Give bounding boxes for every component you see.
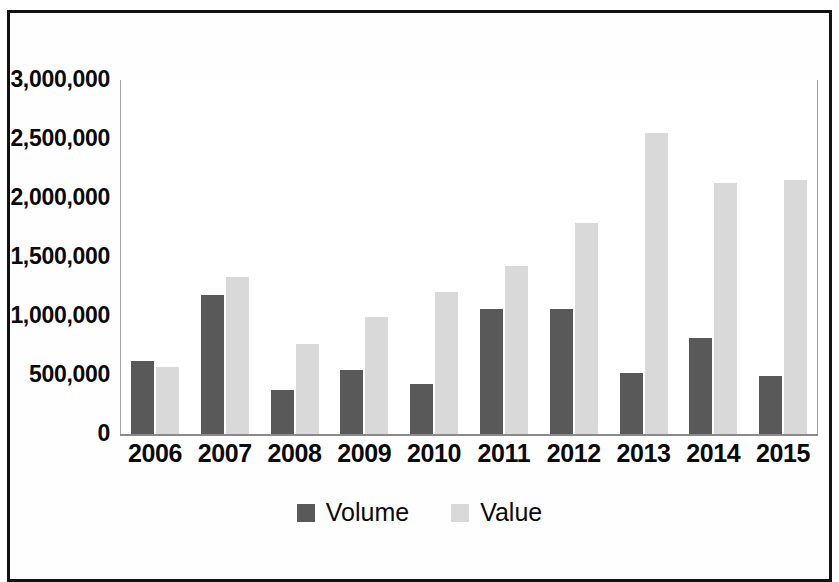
bar-volume-2011[interactable] bbox=[480, 309, 503, 434]
bar-value-2013[interactable] bbox=[645, 133, 668, 434]
x-axis-tick-label-2014: 2014 bbox=[678, 441, 748, 466]
y-axis-tick-label: 1,000,000 bbox=[6, 304, 110, 327]
bar-value-2007[interactable] bbox=[226, 277, 249, 434]
legend-entry-volume[interactable]: Volume bbox=[297, 500, 409, 525]
x-axis-tick-label-2012: 2012 bbox=[539, 441, 609, 466]
gridline bbox=[120, 434, 818, 436]
bar-volume-2008[interactable] bbox=[271, 390, 294, 434]
bar-value-2006[interactable] bbox=[156, 367, 179, 434]
bar-value-2011[interactable] bbox=[505, 266, 528, 434]
y-axis-tick-label: 2,500,000 bbox=[6, 127, 110, 150]
bar-volume-2015[interactable] bbox=[759, 376, 782, 434]
bar-value-2008[interactable] bbox=[296, 344, 319, 434]
legend-label-volume: Volume bbox=[326, 500, 409, 525]
bar-value-2012[interactable] bbox=[575, 223, 598, 434]
x-axis-tick-label-2006: 2006 bbox=[120, 441, 190, 466]
bar-volume-2006[interactable] bbox=[131, 361, 154, 434]
bars-layer bbox=[120, 80, 818, 434]
bar-volume-2010[interactable] bbox=[410, 384, 433, 434]
bar-volume-2012[interactable] bbox=[550, 309, 573, 434]
bar-value-2015[interactable] bbox=[784, 180, 807, 434]
x-axis-tick-label-2010: 2010 bbox=[399, 441, 469, 466]
legend-label-value: Value bbox=[480, 500, 542, 525]
bar-volume-2009[interactable] bbox=[340, 370, 363, 434]
y-axis-tick-label: 2,000,000 bbox=[6, 186, 110, 209]
x-axis-tick-label-2011: 2011 bbox=[469, 441, 539, 466]
legend-swatch-value-icon bbox=[451, 504, 469, 522]
x-axis-tick-label-2009: 2009 bbox=[329, 441, 399, 466]
bar-value-2009[interactable] bbox=[365, 317, 388, 434]
y-axis-tick-label: 3,000,000 bbox=[6, 68, 110, 91]
x-axis-tick-label-2015: 2015 bbox=[748, 441, 818, 466]
legend-entry-value[interactable]: Value bbox=[451, 500, 542, 525]
y-axis-tick-label: 0 bbox=[6, 422, 110, 445]
bar-value-2014[interactable] bbox=[714, 183, 737, 434]
x-axis-tick-label-2007: 2007 bbox=[190, 441, 260, 466]
x-axis-tick-label-2013: 2013 bbox=[609, 441, 679, 466]
bar-volume-2013[interactable] bbox=[620, 373, 643, 434]
legend-swatch-volume-icon bbox=[297, 504, 315, 522]
bar-volume-2014[interactable] bbox=[689, 338, 712, 434]
y-axis-tick-label: 1,500,000 bbox=[6, 245, 110, 268]
y-axis-tick-label: 500,000 bbox=[6, 363, 110, 386]
chart-legend: Volume Value bbox=[0, 500, 839, 525]
x-axis-tick-label-2008: 2008 bbox=[260, 441, 330, 466]
bar-value-2010[interactable] bbox=[435, 292, 458, 434]
bar-volume-2007[interactable] bbox=[201, 295, 224, 434]
